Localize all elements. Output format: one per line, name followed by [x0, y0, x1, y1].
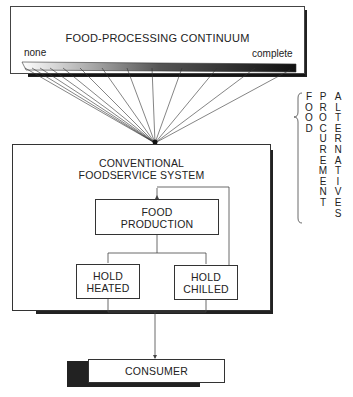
side-label-procurement: P R O C U R E M E N T: [318, 92, 328, 209]
side-label-alternatives: A L T E R N A T I V E S: [333, 92, 343, 219]
side-label-food: F O O D: [304, 92, 314, 134]
brace-icon: [0, 0, 353, 397]
